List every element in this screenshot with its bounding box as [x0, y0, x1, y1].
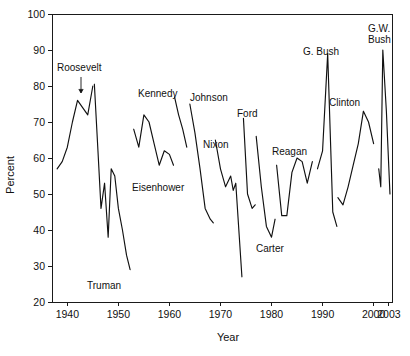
annotation-ford: Ford	[237, 108, 258, 119]
annotation-g-w-bush-line2: Bush	[368, 34, 391, 45]
annotation-roosevelt-arrowhead	[79, 89, 83, 93]
axis-ticks: 2030405060708090100194019501960197019801…	[27, 8, 400, 320]
y-tick-label: 30	[33, 260, 45, 272]
y-tick-label: 50	[33, 188, 45, 200]
x-axis-title: Year	[217, 331, 240, 343]
y-tick-label: 20	[33, 296, 45, 308]
x-tick-label: 1980	[260, 308, 284, 320]
annotation-nixon: Nixon	[203, 139, 229, 150]
presidential-approval-chart: 2030405060708090100194019501960197019801…	[0, 0, 410, 356]
data-series	[57, 50, 390, 277]
axes	[52, 14, 392, 302]
y-tick-label: 90	[33, 44, 45, 56]
series-line-g-w-bush	[379, 50, 390, 194]
y-tick-label: 100	[27, 8, 45, 20]
series-line-g-bush	[317, 54, 336, 227]
x-tick-label: 1960	[158, 308, 182, 320]
annotation-carter: Carter	[256, 243, 284, 254]
y-tick-label: 80	[33, 80, 45, 92]
series-annotations: RooseveltTrumanEisenhowerKennedyJohnsonN…	[57, 23, 391, 291]
y-tick-label: 40	[33, 224, 45, 236]
y-tick-label: 70	[33, 116, 45, 128]
x-tick-label: 1940	[56, 308, 80, 320]
series-line-reagan	[277, 158, 313, 216]
annotation-g-bush: G. Bush	[303, 46, 339, 57]
annotation-truman: Truman	[87, 280, 121, 291]
x-tick-label: 1970	[209, 308, 233, 320]
series-line-clinton	[338, 111, 374, 205]
series-line-nixon	[215, 140, 242, 277]
y-tick-label: 60	[33, 152, 45, 164]
series-line-ford	[243, 118, 255, 208]
annotation-roosevelt: Roosevelt	[57, 62, 102, 73]
annotation-reagan: Reagan	[272, 146, 307, 157]
annotation-eisenhower: Eisenhower	[132, 182, 185, 193]
y-axis-title: Percent	[4, 156, 16, 194]
x-tick-label: 1950	[107, 308, 131, 320]
annotation-johnson: Johnson	[190, 92, 228, 103]
x-tick-label: 2003	[377, 308, 401, 320]
annotation-g-w-bush: G.W.	[368, 23, 390, 34]
chart-svg: 2030405060708090100194019501960197019801…	[0, 0, 410, 356]
series-line-johnson	[190, 104, 213, 223]
annotation-kennedy: Kennedy	[138, 88, 177, 99]
series-line-roosevelt	[57, 86, 93, 169]
annotation-clinton: Clinton	[329, 97, 360, 108]
plot-frame	[52, 14, 392, 302]
series-line-eisenhower	[134, 115, 174, 165]
x-tick-label: 1990	[311, 308, 335, 320]
series-line-kennedy	[175, 97, 187, 147]
series-line-truman	[94, 84, 130, 269]
